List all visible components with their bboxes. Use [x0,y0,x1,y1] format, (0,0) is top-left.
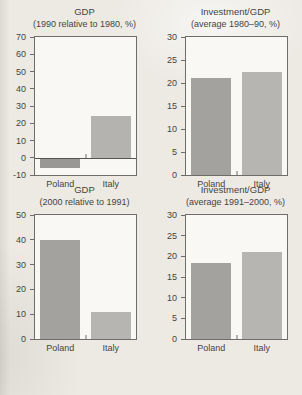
y-tick-mark [30,239,34,240]
x-axis-center-tick [85,335,86,339]
plot-area-gdp-2000: 50403020100PolandItaly [34,214,137,340]
y-tick-mark [30,314,34,315]
y-tick-mark [30,140,34,141]
category-label-italy: Italy [253,179,270,189]
y-tick-label: 30 [167,210,177,220]
y-tick-mark [30,289,34,290]
plot-area-gdp-1990: 706050403020100-10PolandItaly [34,36,137,176]
y-tick-label: 10 [167,124,177,134]
y-tick-label: 10 [167,293,177,303]
plot-wrap: 50403020100PolandItaly [34,214,151,340]
y-tick-label: -10 [13,170,26,180]
category-label-poland: Poland [46,179,74,189]
y-tick-label: 15 [167,101,177,111]
y-tick-label: 0 [21,153,26,163]
y-tick-label: 5 [172,147,177,157]
y-tick-label: 40 [16,235,26,245]
chart-subtitle: (2000 relative to 1991) [0,196,151,208]
category-label-italy: Italy [102,343,119,353]
y-tick-label: 30 [167,32,177,42]
chart-panel-investment-1991-2000: Investment/GDP (average 1991–2000, %) 30… [151,184,302,340]
chart-panel-gdp-1990: GDP (1990 relative to 1980, %) 706050403… [0,6,151,176]
y-tick-label: 40 [16,84,26,94]
y-tick-label: 70 [16,32,26,42]
y-tick-label: 30 [16,101,26,111]
chart-title: Investment/GDP [151,184,302,196]
y-tick-mark [30,157,34,158]
y-tick-mark [181,215,185,216]
x-axis-center-tick [236,335,237,339]
plot-wrap: 302520151050PolandItaly [185,214,302,340]
y-tick-label: 10 [16,309,26,319]
y-tick-label: 20 [16,118,26,128]
plot-area-investment-1991-2000: 302520151050PolandItaly [185,214,288,340]
zero-axis-line [35,158,136,159]
y-tick-mark [181,277,185,278]
y-tick-mark [181,129,185,130]
bar-italy [242,252,282,339]
chart-panel-investment-1980-90: Investment/GDP (average 1980–90, %) 3025… [151,6,302,176]
chart-grid: GDP (1990 relative to 1980, %) 706050403… [0,6,302,340]
bar-poland [191,263,231,339]
y-tick-mark [30,215,34,216]
category-label-poland: Poland [197,343,225,353]
y-tick-mark [30,175,34,176]
y-tick-mark [30,54,34,55]
category-label-poland: Poland [46,343,74,353]
chart-title: GDP [0,6,151,18]
y-tick-mark [30,339,34,340]
category-label-italy: Italy [253,343,270,353]
x-axis-center-tick [85,154,86,158]
chart-subtitle: (average 1991–2000, %) [151,196,302,208]
y-tick-label: 25 [167,55,177,65]
bar-poland [40,158,80,168]
y-tick-label: 20 [16,284,26,294]
scanned-figure-page: GDP (1990 relative to 1980, %) 706050403… [0,0,302,395]
y-tick-mark [30,123,34,124]
y-tick-mark [181,339,185,340]
y-tick-mark [181,175,185,176]
y-tick-mark [181,297,185,298]
y-tick-mark [181,235,185,236]
y-tick-label: 60 [16,49,26,59]
category-label-poland: Poland [197,179,225,189]
chart-panel-gdp-2000: GDP (2000 relative to 1991) 50403020100P… [0,184,151,340]
y-tick-mark [181,152,185,153]
plot-wrap: 706050403020100-10PolandItaly [34,36,151,176]
y-tick-label: 15 [167,272,177,282]
y-tick-label: 0 [172,170,177,180]
bar-italy [242,72,282,176]
y-tick-mark [181,256,185,257]
y-tick-mark [30,37,34,38]
y-tick-mark [181,106,185,107]
y-tick-label: 30 [16,260,26,270]
category-label-italy: Italy [102,179,119,189]
x-axis-center-tick [236,171,237,175]
bar-italy [91,116,131,157]
y-tick-mark [30,106,34,107]
y-tick-mark [181,318,185,319]
y-tick-mark [30,71,34,72]
plot-wrap: 302520151050PolandItaly [185,36,302,176]
chart-subtitle: (average 1980–90, %) [151,18,302,30]
chart-title: Investment/GDP [151,6,302,18]
y-tick-label: 0 [21,334,26,344]
chart-title: GDP [0,184,151,196]
bar-poland [191,78,231,175]
y-tick-label: 50 [16,67,26,77]
chart-subtitle: (1990 relative to 1980, %) [0,18,151,30]
y-tick-label: 10 [16,136,26,146]
y-tick-label: 50 [16,210,26,220]
y-tick-label: 0 [172,334,177,344]
y-tick-mark [181,83,185,84]
bar-poland [40,240,80,339]
y-tick-label: 20 [167,251,177,261]
y-tick-label: 5 [172,313,177,323]
y-tick-mark [181,37,185,38]
y-tick-label: 25 [167,231,177,241]
y-tick-mark [30,88,34,89]
plot-area-investment-1980-90: 302520151050PolandItaly [185,36,288,176]
y-tick-mark [181,60,185,61]
y-tick-label: 20 [167,78,177,88]
bar-italy [91,312,131,339]
